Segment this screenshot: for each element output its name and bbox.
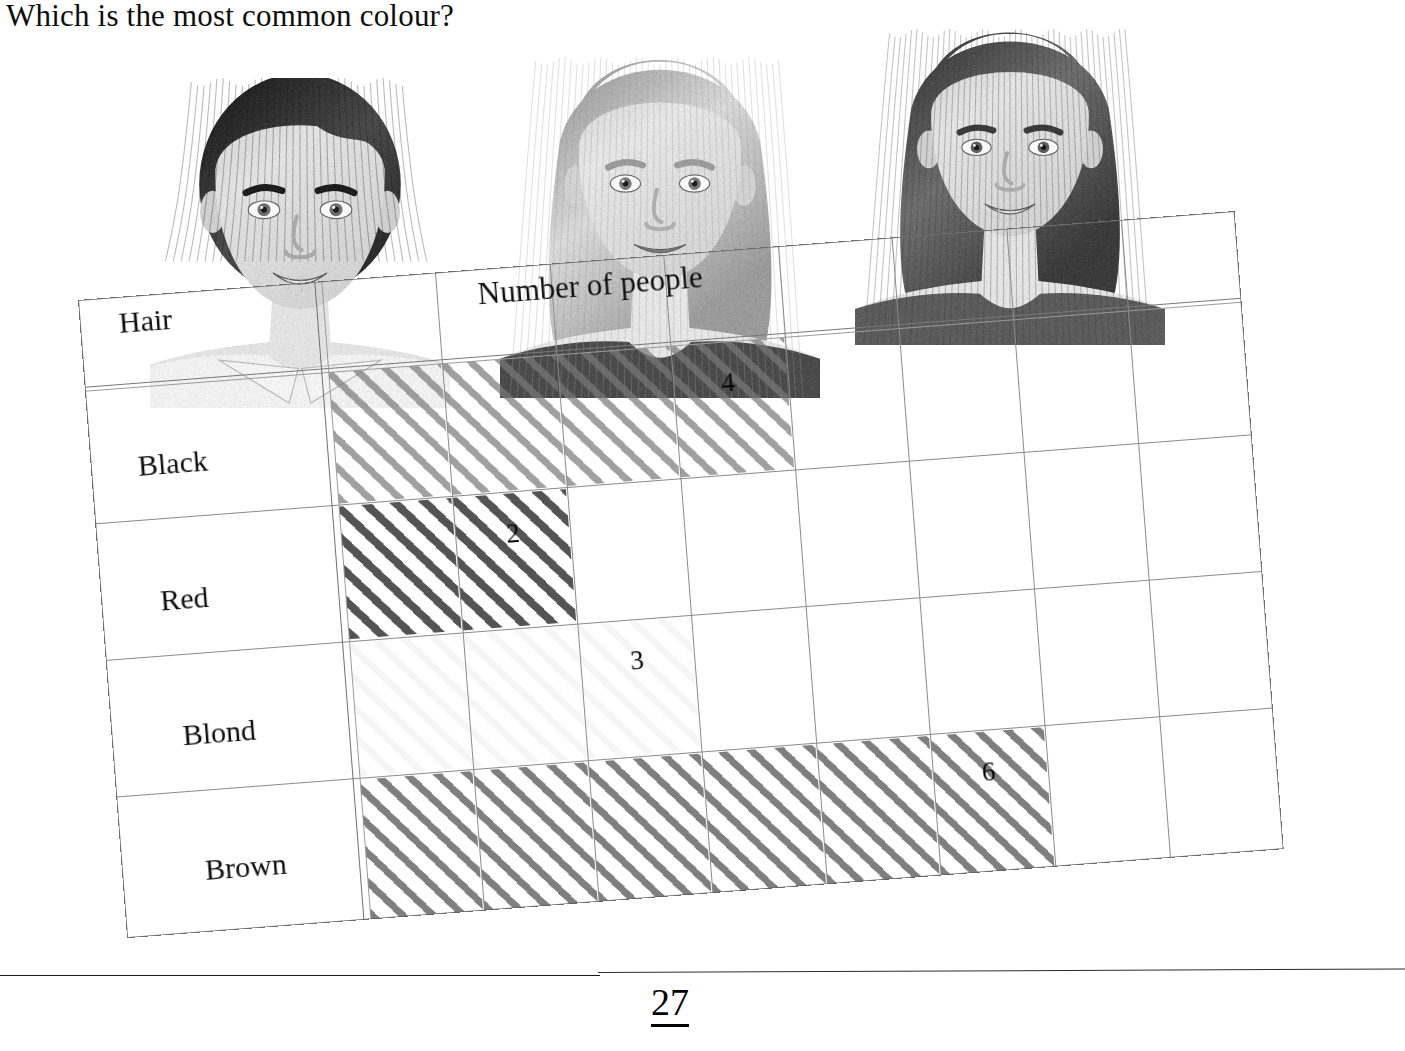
tally-cell-black-2	[443, 356, 566, 495]
tally-cell-red-2	[453, 489, 576, 630]
hair-colour-tally-table: Hair Number of people Black Red Blond Br…	[78, 211, 1284, 938]
row-label-black: Black	[137, 444, 209, 483]
row-label-blond: Blond	[181, 713, 257, 753]
tally-count-blond: 3	[629, 645, 645, 677]
tally-count-brown: 6	[981, 756, 997, 788]
tally-cell-black-4	[671, 338, 794, 477]
tally-count-black: 4	[720, 367, 736, 399]
page-title: Which is the most common colour?	[6, 0, 454, 34]
tally-cell-blond-1	[350, 635, 472, 776]
tally-count-red: 2	[505, 518, 521, 550]
tally-cell-brown-2	[474, 762, 597, 910]
tally-cell-brown-4	[703, 745, 826, 893]
page-number: 27	[651, 983, 689, 1027]
tally-cell-brown-3	[589, 754, 711, 902]
tally-cell-black-3	[558, 347, 680, 486]
tally-cell-black-1	[329, 364, 451, 503]
tally-cell-blond-2	[464, 626, 587, 767]
tally-cell-brown-1	[361, 771, 483, 919]
table-header-hair: Hair	[118, 302, 174, 340]
tally-cell-brown-5	[817, 736, 939, 884]
tally-cell-blond-3	[578, 617, 700, 758]
footer-rule	[0, 975, 600, 976]
row-label-red: Red	[159, 580, 210, 618]
footer-rule-right	[598, 968, 1405, 973]
table-header-number-of-people: Number of people	[476, 259, 704, 312]
row-label-brown: Brown	[204, 847, 288, 887]
tally-cell-brown-6	[931, 727, 1054, 875]
tally-cell-red-1	[340, 498, 462, 639]
